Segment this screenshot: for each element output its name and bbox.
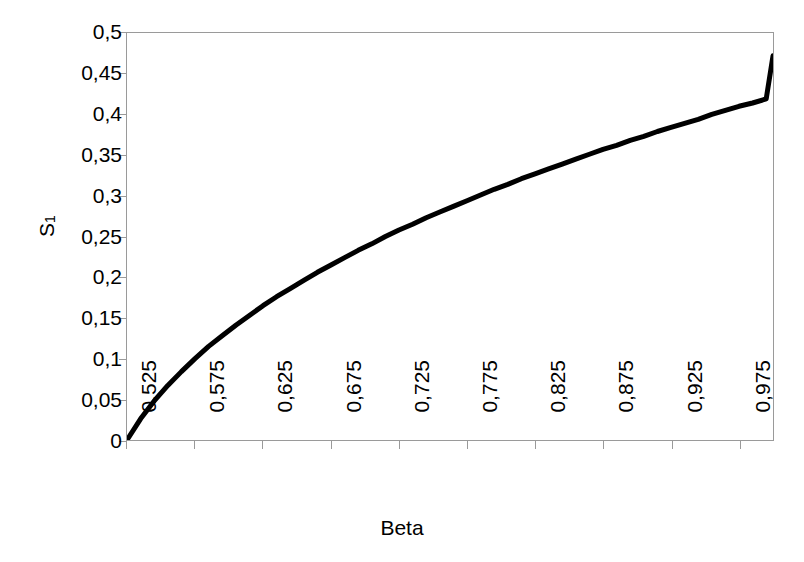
y-axis-title-base: S <box>36 223 57 237</box>
x-tick-mark <box>331 441 332 449</box>
x-tick-label: 0,825 <box>546 360 570 452</box>
x-tick-mark <box>262 441 263 449</box>
x-tick-label: 0,975 <box>751 360 775 452</box>
x-tick-label: 0,925 <box>683 360 707 452</box>
x-tick-label: 0,875 <box>614 360 638 452</box>
y-tick-label: 0,1 <box>0 348 122 369</box>
x-tick-mark <box>467 441 468 449</box>
x-tick-mark <box>672 441 673 449</box>
x-tick-label: 0,725 <box>410 360 434 452</box>
y-tick-label: 0,15 <box>0 307 122 328</box>
y-axis-tick-labels: 0,50,450,40,350,30,250,20,150,10,050 <box>0 0 122 562</box>
x-tick-mark <box>194 441 195 449</box>
y-tick-label: 0,05 <box>0 389 122 410</box>
y-tick-label: 0,45 <box>0 62 122 83</box>
x-tick-mark <box>603 441 604 449</box>
y-axis-title: S1 <box>16 196 76 256</box>
x-tick-label: 0,675 <box>342 360 366 452</box>
y-tick-label: 0 <box>0 430 122 451</box>
x-tick-label: 0,575 <box>205 360 229 452</box>
x-tick-mark <box>535 441 536 449</box>
y-tick-label: 0,2 <box>0 266 122 287</box>
x-tick-mark <box>740 441 741 449</box>
y-tick-label: 0,5 <box>0 21 122 42</box>
x-tick-mark <box>126 441 127 449</box>
chart-figure: 0,50,450,40,350,30,250,20,150,10,050 S1 … <box>0 0 804 562</box>
x-tick-mark <box>399 441 400 449</box>
x-tick-label: 0,525 <box>137 360 161 452</box>
y-tick-label: 0,4 <box>0 103 122 124</box>
x-tick-label: 0,625 <box>273 360 297 452</box>
x-axis-title: Beta <box>0 516 804 540</box>
x-tick-label: 0,775 <box>478 360 502 452</box>
y-axis-title-subscript: 1 <box>40 215 61 223</box>
y-tick-label: 0,35 <box>0 144 122 165</box>
